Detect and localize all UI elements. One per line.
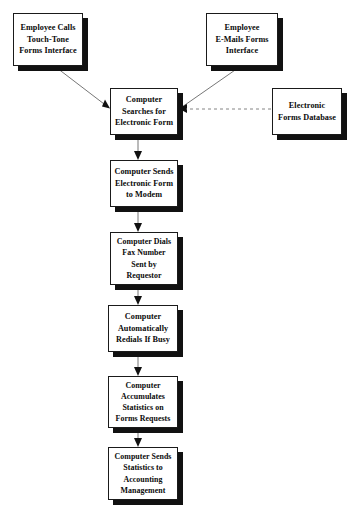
node-computer-sends-statistics[interactable]: Computer Sends Statistics to Accounting … bbox=[108, 447, 178, 500]
node-electronic-forms-database-label: Electronic Forms Database bbox=[276, 100, 338, 123]
connector-dials-to-redials bbox=[134, 285, 142, 305]
connector-emails-to-searches bbox=[179, 68, 239, 113]
connector-searches-to-modem bbox=[134, 135, 142, 160]
connector-modem-to-dials bbox=[134, 207, 142, 232]
node-employee-emails[interactable]: Employee E-Mails Forms Interface bbox=[206, 13, 278, 66]
node-electronic-forms-database[interactable]: Electronic Forms Database bbox=[272, 88, 342, 135]
node-computer-sends-modem[interactable]: Computer Sends Electronic Form to Modem bbox=[110, 160, 178, 207]
node-computer-redials-label: Computer Automatically Redials If Busy bbox=[114, 311, 172, 346]
node-computer-dials-fax[interactable]: Computer Dials Fax Number Sent by Reques… bbox=[110, 232, 178, 285]
connector-redials-to-accumulates bbox=[134, 352, 142, 376]
node-computer-searches-label: Computer Searches for Electronic Form bbox=[113, 94, 175, 129]
node-employee-calls-label: Employee Calls Touch-Tone Forms Interfac… bbox=[17, 22, 78, 57]
node-employee-emails-label: Employee E-Mails Forms Interface bbox=[213, 22, 270, 57]
node-employee-calls[interactable]: Employee Calls Touch-Tone Forms Interfac… bbox=[13, 13, 83, 66]
node-computer-sends-modem-label: Computer Sends Electronic Form to Modem bbox=[112, 166, 175, 201]
node-computer-redials[interactable]: Computer Automatically Redials If Busy bbox=[108, 305, 178, 352]
connector-accumulates-to-statistics bbox=[134, 428, 142, 447]
node-computer-accumulates[interactable]: Computer Accumulates Statistics on Forms… bbox=[108, 376, 178, 428]
connector-calls-to-searches bbox=[57, 68, 110, 109]
node-computer-accumulates-label: Computer Accumulates Statistics on Forms… bbox=[114, 380, 173, 425]
flowchart-canvas: Employee Calls Touch-Tone Forms Interfac… bbox=[0, 0, 355, 511]
node-computer-sends-statistics-label: Computer Sends Statistics to Accounting … bbox=[113, 451, 174, 496]
node-computer-dials-fax-label: Computer Dials Fax Number Sent by Reques… bbox=[115, 236, 173, 281]
node-computer-searches[interactable]: Computer Searches for Electronic Form bbox=[110, 88, 178, 135]
